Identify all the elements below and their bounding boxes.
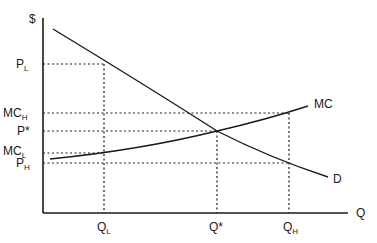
x-tick-ql: QL [97,220,111,236]
demand-curve [53,29,328,177]
y-axis-label: $ [29,12,36,26]
y-tick-pstar: P* [17,124,30,138]
y-tick-labels: PL MCH P* MCL PH [3,57,30,172]
y-tick-ph: PH [16,156,30,172]
x-tick-labels: QL Q* QH [97,220,298,236]
y-tick-pl: PL [16,57,29,73]
y-tick-mch: MCH [3,106,28,122]
guide-lines [43,64,289,213]
mc-curve [50,106,308,159]
mc-curve-label: MC [314,97,333,111]
x-tick-qh: QH [283,220,298,236]
d-curve-label: D [333,172,342,186]
economics-diagram: $ Q MC D PL MCH P* MC [0,0,377,243]
axes: $ Q [29,12,365,220]
x-tick-qstar: Q* [209,220,223,234]
x-axis-label: Q [356,206,365,220]
